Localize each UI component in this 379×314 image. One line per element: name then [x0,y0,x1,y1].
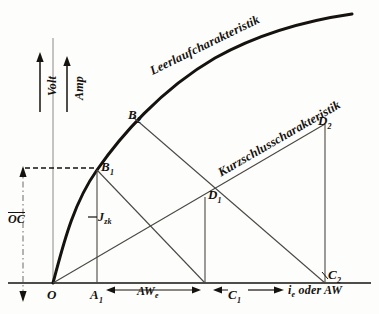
volt-arrow [36,52,43,112]
awe-main: AW [137,284,155,298]
point-D2-sub: 2 [328,122,332,131]
point-label-B2: B2 [128,108,141,125]
point-A1-letter: A [90,287,99,302]
y-axis-label-amp: Amp [73,76,85,100]
point-C2-sub: 2 [337,276,341,285]
construction-b1-c1 [97,170,205,283]
oc-bracket [19,166,26,302]
point-B2-letter: B [128,107,137,122]
x-axis-arrow [248,286,284,293]
point-O-letter: O [47,287,57,302]
point-B1-letter: B [101,159,110,174]
x-axis-label: ie oder AW [288,284,342,299]
point-D1-sub: 1 [218,196,222,205]
awe-sub: e [155,291,159,300]
segment-label-oc-text: OC [8,212,25,225]
kurzschluss-line [53,124,325,283]
point-C1-letter: C [228,287,237,302]
figure-canvas: Volt Amp Leerlaufcharakteristik Kurzschl… [0,0,379,314]
point-C2-letter: C [328,267,337,282]
jzk-sub: zk [104,217,112,226]
c1-dimension-arrow [213,287,228,294]
point-label-A1: A1 [90,288,103,305]
point-B1-sub: 1 [110,168,114,177]
segment-label-jzk: Jzk [98,211,112,226]
point-C1-sub: 1 [237,296,241,305]
point-label-D1: D1 [208,188,222,205]
leerlauf-curve [53,14,352,283]
point-label-D2: D2 [318,114,332,131]
segment-label-oc: OC [8,212,25,225]
amp-arrow [63,56,70,112]
point-D1-letter: D [208,187,218,202]
point-label-B1: B1 [101,160,114,177]
point-A1-sub: 1 [99,296,103,305]
y-axis-label-volt: Volt [46,76,58,96]
point-label-C2: C2 [328,268,341,285]
point-B2-sub: 2 [137,116,141,125]
segment-label-awe: AWe [137,285,159,300]
construction-b2-c2 [133,117,325,283]
point-D2-letter: D [318,113,328,128]
x-axis-label-rest: oder AW [295,283,342,297]
point-label-C1: C1 [228,288,241,305]
point-label-O: O [47,288,57,301]
